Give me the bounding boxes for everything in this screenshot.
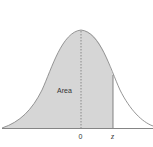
mean-tick-label: 0 xyxy=(79,133,83,140)
area-label: Area xyxy=(57,87,72,94)
normal-curve-svg: Area 0 z xyxy=(0,0,153,147)
z-tick-label: z xyxy=(110,132,115,141)
shaded-area xyxy=(2,30,113,128)
